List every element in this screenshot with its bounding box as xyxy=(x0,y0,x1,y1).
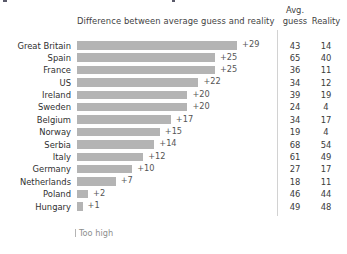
reality-value: 54 xyxy=(310,140,342,150)
country-label: Italy xyxy=(0,152,71,162)
legend-too-high: Too high xyxy=(75,228,113,238)
bar-value-label: +20 xyxy=(192,90,209,99)
avg-guess-value: 68 xyxy=(282,140,308,150)
bar-container xyxy=(77,53,215,62)
bar-value-label: +7 xyxy=(121,176,133,185)
bar-value-label: +25 xyxy=(220,53,237,62)
avg-guess-column-header: Avg. guess xyxy=(282,5,308,27)
table-row: US+223412 xyxy=(0,77,347,89)
table-row: Poland+24644 xyxy=(0,189,347,201)
bar-value-label: +10 xyxy=(137,164,154,173)
difference-bar xyxy=(77,115,171,124)
table-row: Netherlands+71811 xyxy=(0,176,347,188)
country-label: Hungary xyxy=(0,202,71,212)
country-label: Belgium xyxy=(0,115,71,125)
avg-guess-value: 19 xyxy=(282,127,308,137)
bar-value-label: +14 xyxy=(159,139,176,148)
bar-value-label: +15 xyxy=(165,127,182,136)
avg-guess-value: 34 xyxy=(282,78,308,88)
comparison-bar-chart: Difference between average guess and rea… xyxy=(0,0,347,254)
table-row: Spain+256540 xyxy=(0,52,347,64)
table-row: Ireland+203919 xyxy=(0,90,347,102)
reality-value: 44 xyxy=(310,189,342,199)
bar-value-label: +20 xyxy=(192,102,209,111)
reality-value: 11 xyxy=(310,65,342,75)
bar-container xyxy=(77,202,83,211)
bar-container xyxy=(77,66,215,75)
difference-bar xyxy=(77,128,160,137)
bar-value-label: +22 xyxy=(203,77,220,86)
bar-value-label: +12 xyxy=(148,152,165,161)
bar-container xyxy=(77,103,187,112)
bar-container xyxy=(77,41,237,50)
avg-guess-header-line1: Avg. xyxy=(282,5,308,16)
avg-guess-value: 43 xyxy=(282,41,308,51)
table-row: France+253611 xyxy=(0,65,347,77)
bar-container xyxy=(77,78,198,87)
country-label: US xyxy=(0,78,71,88)
reality-value: 19 xyxy=(310,90,342,100)
table-row: Great Britain+294314 xyxy=(0,40,347,52)
country-label: Ireland xyxy=(0,90,71,100)
table-row: Hungary+14948 xyxy=(0,201,347,213)
reality-value: 14 xyxy=(310,41,342,51)
avg-guess-value: 65 xyxy=(282,53,308,63)
table-row: Serbia+146854 xyxy=(0,139,347,151)
legend-tick-icon xyxy=(75,229,76,237)
avg-guess-value: 34 xyxy=(282,115,308,125)
bar-container xyxy=(77,153,143,162)
table-row: Belgium+173417 xyxy=(0,114,347,126)
bar-container xyxy=(77,177,116,186)
avg-guess-value: 36 xyxy=(282,65,308,75)
country-label: Great Britain xyxy=(0,41,71,51)
avg-guess-header-line2: guess xyxy=(282,16,308,27)
difference-bar xyxy=(77,66,215,75)
bar-container xyxy=(77,128,160,137)
country-label: Spain xyxy=(0,53,71,63)
difference-column-header: Difference between average guess and rea… xyxy=(77,16,275,26)
reality-column-header: Reality xyxy=(310,16,342,26)
table-row: Italy+126149 xyxy=(0,152,347,164)
bar-value-label: +29 xyxy=(242,40,259,49)
bar-value-label: +17 xyxy=(176,115,193,124)
clipped-mark-right xyxy=(172,0,175,2)
avg-guess-value: 24 xyxy=(282,102,308,112)
avg-guess-value: 49 xyxy=(282,202,308,212)
difference-bar xyxy=(77,177,116,186)
table-row: Germany+102717 xyxy=(0,164,347,176)
reality-value: 40 xyxy=(310,53,342,63)
reality-value: 17 xyxy=(310,164,342,174)
bar-container xyxy=(77,115,171,124)
difference-bar xyxy=(77,78,198,87)
avg-guess-value: 18 xyxy=(282,177,308,187)
reality-value: 4 xyxy=(310,102,342,112)
table-row: Sweden+20244 xyxy=(0,102,347,114)
difference-bar xyxy=(77,190,88,199)
difference-bar xyxy=(77,91,187,100)
difference-bar xyxy=(77,140,154,149)
country-label: France xyxy=(0,65,71,75)
clipped-mark-left xyxy=(3,0,7,2)
reality-value: 49 xyxy=(310,152,342,162)
difference-bar xyxy=(77,153,143,162)
country-label: Germany xyxy=(0,164,71,174)
reality-value: 12 xyxy=(310,78,342,88)
bar-value-label: +1 xyxy=(88,201,100,210)
bar-container xyxy=(77,190,88,199)
avg-guess-value: 61 xyxy=(282,152,308,162)
country-label: Netherlands xyxy=(0,177,71,187)
avg-guess-value: 27 xyxy=(282,164,308,174)
reality-value: 11 xyxy=(310,177,342,187)
bar-value-label: +25 xyxy=(220,65,237,74)
difference-bar xyxy=(77,202,83,211)
reality-value: 17 xyxy=(310,115,342,125)
bar-container xyxy=(77,140,154,149)
country-label: Serbia xyxy=(0,140,71,150)
difference-bar xyxy=(77,41,237,50)
difference-bar xyxy=(77,165,132,174)
bar-value-label: +2 xyxy=(93,189,105,198)
country-label: Norway xyxy=(0,127,71,137)
avg-guess-value: 39 xyxy=(282,90,308,100)
avg-guess-value: 46 xyxy=(282,189,308,199)
country-label: Sweden xyxy=(0,102,71,112)
